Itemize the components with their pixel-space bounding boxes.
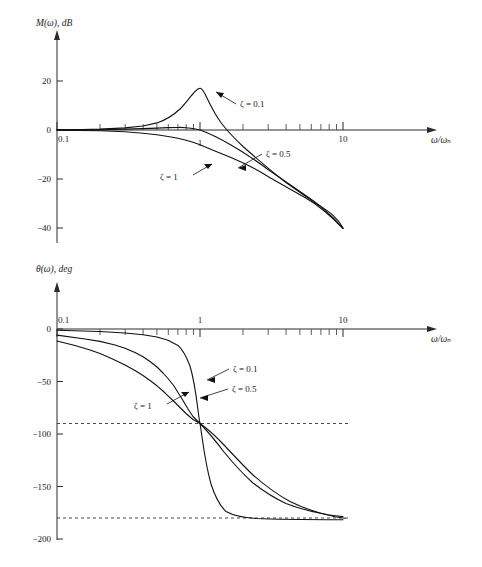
phase-ytick-minus50: −50	[37, 377, 52, 387]
magnitude-curve-zeta-1	[57, 130, 343, 228]
phase-curve-zeta-0.1	[57, 330, 343, 520]
magnitude-label-zeta-0.5: ζ = 0.5	[266, 149, 291, 159]
magnitude-ytick-minus40: −40	[37, 223, 52, 233]
magnitude-ytick-20: 20	[42, 76, 52, 86]
phase-annotation-zeta-0.1: ζ = 0.1	[207, 364, 258, 383]
magnitude-label-zeta-0.1: ζ = 0.1	[240, 99, 265, 109]
phase-label-zeta-1: ζ = 1	[134, 401, 152, 411]
magnitude-ytick-minus20: −20	[37, 174, 52, 184]
magnitude-annotation-zeta-0.1: ζ = 0.1	[216, 92, 265, 109]
phase-xtick-0.1: 0.1	[58, 315, 69, 325]
phase-label-zeta-0.5: ζ = 0.5	[232, 384, 257, 394]
phase-annotation-zeta-0.5: ζ = 0.5	[200, 384, 257, 401]
magnitude-xtick-1: 1	[198, 138, 203, 148]
magnitude-xtick-0.1: 0.1	[58, 134, 69, 144]
magnitude-annotation-zeta-1: ζ = 1	[160, 164, 212, 182]
magnitude-x-axis-label: ω/ωₙ	[431, 135, 451, 145]
magnitude-label-zeta-1: ζ = 1	[160, 172, 178, 182]
magnitude-plot: 20 0 −20 −40	[35, 18, 451, 243]
magnitude-ytick-0: 0	[47, 125, 52, 135]
magnitude-annotation-zeta-0.5: ζ = 0.5	[238, 149, 291, 171]
figure-canvas: 20 0 −20 −40	[0, 0, 482, 567]
phase-ytick-0: 0	[47, 324, 52, 334]
magnitude-y-ticks	[57, 81, 63, 228]
magnitude-xtick-10: 10	[339, 134, 349, 144]
phase-xtick-1: 1	[198, 315, 203, 325]
phase-ytick-minus150: −150	[32, 482, 51, 492]
phase-x-axis-label: ω/ωₙ	[431, 334, 451, 344]
phase-ytick-minus100: −100	[32, 429, 51, 439]
phase-ytick-minus200: −200	[32, 534, 51, 544]
bode-plot-figure: 20 0 −20 −40	[0, 0, 482, 567]
phase-xtick-10: 10	[339, 315, 349, 325]
phase-y-axis-label: θ(ω), deg	[36, 264, 72, 275]
phase-x-axis	[57, 326, 437, 332]
phase-label-zeta-0.1: ζ = 0.1	[233, 364, 258, 374]
phase-plot: 0 −50 −100 −150 −200	[32, 264, 451, 544]
phase-y-ticks	[57, 329, 63, 539]
magnitude-curve-zeta-0.1	[57, 88, 343, 228]
magnitude-y-axis-label: M(ω), dB	[35, 18, 72, 29]
